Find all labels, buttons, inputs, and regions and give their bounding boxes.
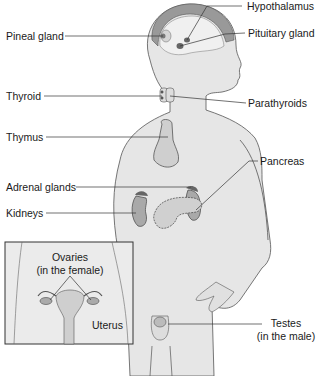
label-pituitary-gland: Pituitary gland: [248, 27, 315, 39]
label-adrenal-glands: Adrenal glands: [6, 181, 76, 193]
thyroid-shape: [160, 88, 174, 102]
label-pancreas: Pancreas: [260, 155, 304, 167]
testes-shape: [154, 317, 166, 327]
label-testes-note: (in the male): [250, 330, 322, 342]
label-uterus: Uterus: [92, 319, 123, 331]
right-ovary-shape: [87, 298, 99, 305]
label-hypothalamus: Hypothalamus: [247, 0, 314, 12]
label-ovaries: Ovaries: [30, 251, 110, 263]
endocrine-diagram: Hypothalamus Pineal gland Pituitary glan…: [0, 0, 324, 376]
label-kidneys: Kidneys: [6, 207, 43, 219]
label-testes: Testes: [250, 317, 322, 329]
left-ovary-shape: [40, 298, 52, 305]
label-pineal-gland: Pineal gland: [6, 30, 64, 42]
label-parathyroids: Parathyroids: [248, 97, 307, 109]
label-ovaries-note: (in the female): [30, 264, 110, 276]
label-thyroid: Thyroid: [6, 90, 41, 102]
label-thymus: Thymus: [6, 131, 43, 143]
